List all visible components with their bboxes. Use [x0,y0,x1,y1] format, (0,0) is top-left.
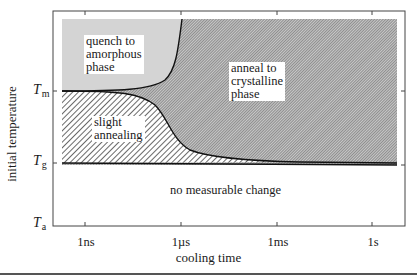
slight-line-2: annealing [94,129,143,142]
quench-label: quench to amorphous phase [84,35,144,74]
x-axis-title: cooling time [0,250,417,266]
tm-label: Tm [33,82,50,99]
ta-label: Ta [33,215,46,232]
phase-diagram [0,0,417,277]
anneal-label: anneal to crystalline phase [229,62,285,101]
tg-label: Tg [33,153,47,170]
tm-symbol: T [33,82,41,97]
quench-line-3: phase [86,61,142,74]
y-axis-title: initial temperature [4,86,20,182]
tick-1us: 1µs [172,235,190,250]
tm-sub: m [42,88,50,99]
tg-sub: g [42,159,47,170]
no-change-label: no measurable change [170,184,281,197]
tick-1ms: 1ms [268,235,289,250]
anneal-line-3: phase [231,88,283,101]
slight-annealing-label: slight annealing [92,116,145,142]
ta-sub: a [42,221,46,232]
tg-symbol: T [33,153,41,168]
tick-1ns: 1ns [77,235,94,250]
tick-1s: 1s [367,235,378,250]
ta-symbol: T [33,215,41,230]
bottom-rule [0,273,417,275]
